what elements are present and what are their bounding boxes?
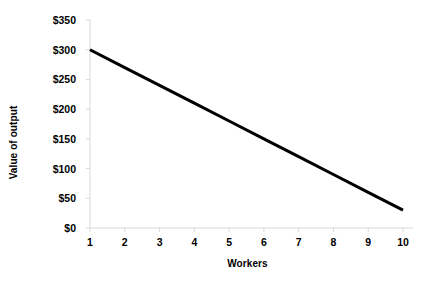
x-tick-label: 8 [331,236,337,248]
x-tick-label: 6 [261,236,267,248]
y-axis-title: Value of output [0,0,26,285]
x-tick-label: 9 [365,236,371,248]
y-tick-label: $300 [22,44,84,56]
y-tick-label: $350 [22,14,84,26]
x-tick-label: 4 [191,236,197,248]
data-line-value-of-output [90,50,403,210]
data-series-group [90,50,403,210]
x-tick-label: 3 [157,236,163,248]
x-axis-tick-labels: 12345678910 [0,236,430,252]
x-tick-label: 2 [122,236,128,248]
x-axis-title: Workers [90,258,405,269]
axis-lines [90,20,413,228]
y-tick-label: $50 [22,192,84,204]
x-axis-tick-marks [90,228,403,232]
y-axis-tick-marks [86,20,90,228]
y-tick-label: $250 [22,73,84,85]
x-tick-label: 1 [87,236,93,248]
x-tick-label: 7 [296,236,302,248]
y-tick-label: $150 [22,133,84,145]
x-tick-label: 5 [226,236,232,248]
y-tick-label: $200 [22,103,84,115]
y-tick-label: $100 [22,163,84,175]
x-tick-label: 10 [397,236,409,248]
chart-container: $0$50$100$150$200$250$300$350 1234567891… [0,0,430,285]
y-tick-label: $0 [22,222,84,234]
